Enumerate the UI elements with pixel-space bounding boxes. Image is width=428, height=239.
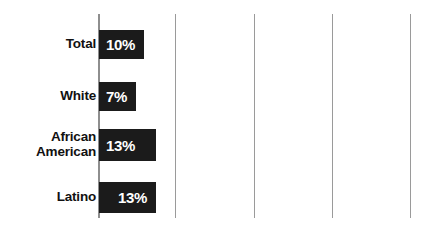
bar-latino: 13%: [99, 182, 156, 213]
bar-white: 7%: [99, 82, 136, 111]
bar-value-african-american: 13%: [99, 138, 156, 153]
bar-value-latino: 13%: [99, 190, 156, 205]
category-label-white: White: [0, 89, 96, 104]
bar-value-total: 10%: [99, 37, 144, 52]
bar-row-african-american: African American 13%: [0, 129, 428, 161]
bar-row-white: White 7%: [0, 82, 428, 111]
bar-value-white: 7%: [99, 89, 136, 104]
bar-row-latino: Latino 13%: [0, 182, 428, 213]
bar-african-american: 13%: [99, 129, 156, 161]
bar-row-total: Total 10%: [0, 30, 428, 59]
category-label-african-american: African American: [0, 130, 96, 159]
category-label-total: Total: [0, 37, 96, 52]
chart-plot-area: Total 10% White 7% African American 13% …: [0, 0, 428, 239]
bar-total: 10%: [99, 30, 144, 59]
bar-chart: Total 10% White 7% African American 13% …: [0, 0, 428, 239]
category-label-latino: Latino: [0, 190, 96, 205]
